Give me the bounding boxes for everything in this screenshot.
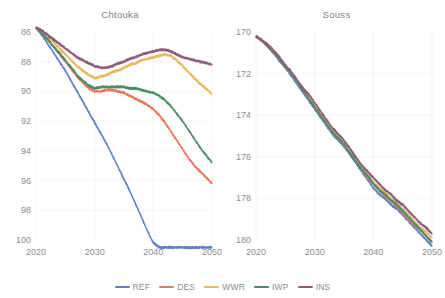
y-axis-tick-label: 98 <box>2 205 31 215</box>
y-axis-tick-label: 94 <box>2 146 31 156</box>
legend-swatch-ref <box>115 286 130 288</box>
y-axis-tick-label: 100 <box>2 235 31 245</box>
y-axis-tick-label: 88 <box>2 57 31 67</box>
series-line-ins <box>36 27 212 69</box>
y-axis-tick-label: 90 <box>2 86 31 96</box>
legend-label-ref: REF <box>133 282 151 292</box>
panel-title-souss: Souss <box>222 9 445 20</box>
chart-legend: REFDESWWRIWPINS <box>0 282 445 292</box>
series-line-ins <box>256 36 432 234</box>
legend-item-iwp[interactable]: IWP <box>254 282 289 292</box>
y-axis-tick-label: 178 <box>222 193 251 203</box>
plot-area-chtouka <box>36 32 212 240</box>
y-axis-tick-label: 174 <box>222 110 251 120</box>
series-line-iwp <box>36 27 212 162</box>
legend-swatch-iwp <box>254 286 269 288</box>
line-chart-chtouka <box>36 32 212 240</box>
y-axis-tick-label: 180 <box>222 235 251 245</box>
y-axis-tick-label: 86 <box>2 27 31 37</box>
legend-swatch-wwr <box>204 286 219 288</box>
legend-item-ref[interactable]: REF <box>115 282 151 292</box>
legend-label-iwp: IWP <box>272 282 289 292</box>
x-axis-tick-label: 2050 <box>202 247 222 257</box>
legend-label-ins: INS <box>316 282 331 292</box>
x-axis-tick-label: 2040 <box>143 247 163 257</box>
x-axis-tick-label: 2020 <box>26 247 46 257</box>
line-chart-souss <box>256 32 432 240</box>
legend-label-wwr: WWR <box>222 282 245 292</box>
legend-item-ins[interactable]: INS <box>298 282 331 292</box>
x-axis-tick-label: 2030 <box>305 247 325 257</box>
legend-label-des: DES <box>177 282 195 292</box>
y-axis-tick-label: 92 <box>2 116 31 126</box>
plot-area-souss <box>256 32 432 240</box>
legend-swatch-ins <box>298 286 313 288</box>
figure-root: Chtouka 86889092949698100202020302040205… <box>0 0 445 298</box>
y-axis-tick-label: 96 <box>2 176 31 186</box>
x-axis-tick-label: 2050 <box>422 247 442 257</box>
panel-chtouka: Chtouka 86889092949698100202020302040205… <box>0 0 222 268</box>
panel-souss: Souss 1701721741761781802020203020402050 <box>222 0 445 268</box>
x-axis-tick-label: 2040 <box>363 247 383 257</box>
legend-swatch-des <box>159 286 174 288</box>
legend-item-des[interactable]: DES <box>159 282 195 292</box>
x-axis-tick-label: 2030 <box>85 247 105 257</box>
legend-item-wwr[interactable]: WWR <box>204 282 245 292</box>
y-axis-tick-label: 176 <box>222 152 251 162</box>
y-axis-tick-label: 172 <box>222 69 251 79</box>
panel-title-chtouka: Chtouka <box>0 9 222 20</box>
x-axis-tick-label: 2020 <box>246 247 266 257</box>
y-axis-tick-label: 170 <box>222 27 251 37</box>
